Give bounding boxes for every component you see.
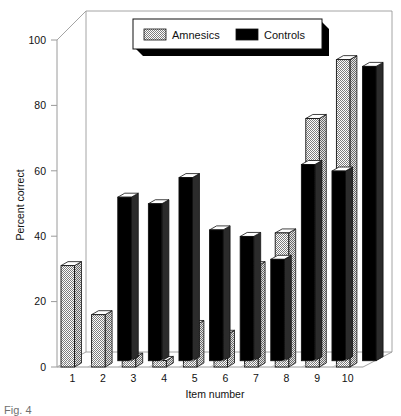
x-tick-label-5: 5 <box>192 372 198 384</box>
figure-container: 020406080100 Percent correct 12345678910… <box>0 0 401 416</box>
bar-controls-2 <box>118 193 139 361</box>
bar-side <box>162 200 169 361</box>
legend-label-amnesics: Amnesics <box>172 29 220 41</box>
y-tick-label: 80 <box>34 99 46 111</box>
bar-face <box>179 178 193 361</box>
bar-controls-10 <box>363 62 384 360</box>
bar-side <box>192 174 199 361</box>
bar-face <box>301 165 315 361</box>
bar-face <box>271 259 285 360</box>
bar-face <box>240 236 254 360</box>
bar-face <box>61 266 75 367</box>
bar-side <box>223 226 230 361</box>
bar-face <box>118 197 132 361</box>
bar-face <box>210 230 224 361</box>
bar-side <box>315 161 322 361</box>
bar-side <box>131 193 138 361</box>
x-tick-label-2: 2 <box>100 372 106 384</box>
bar-amnesics-2 <box>92 311 113 367</box>
bar-side <box>345 167 352 361</box>
legend-swatch-controls <box>236 29 258 40</box>
x-tick-label-7: 7 <box>253 372 259 384</box>
bar-side <box>284 255 291 360</box>
x-tick-label-9: 9 <box>314 372 320 384</box>
x-tick-label-4: 4 <box>161 372 167 384</box>
x-axis-title: Item number <box>186 388 245 400</box>
bar-face <box>92 315 106 367</box>
y-tick-label: 60 <box>34 165 46 177</box>
bar-side <box>254 232 261 360</box>
x-tick-label-8: 8 <box>284 372 290 384</box>
bar-face <box>148 204 162 361</box>
bar-chart-3d: 020406080100 Percent correct 12345678910… <box>0 0 401 416</box>
y-axis-title: Percent correct <box>14 169 26 240</box>
y-tick-label: 20 <box>34 295 46 307</box>
y-tick-label: 0 <box>40 361 46 373</box>
legend-swatch-amnesics <box>144 29 166 40</box>
bar-side <box>376 62 383 360</box>
bar-controls-6 <box>240 232 261 360</box>
bar-controls-4 <box>179 174 200 361</box>
y-tick-label: 40 <box>34 230 46 242</box>
bar-controls-7 <box>271 255 292 360</box>
figure-caption: Fig. 4 <box>4 404 32 416</box>
bar-side <box>105 311 112 367</box>
legend: Amnesics Controls <box>133 19 329 56</box>
x-tick-label-6: 6 <box>222 372 228 384</box>
bar-controls-5 <box>210 226 231 361</box>
bar-amnesics-1 <box>61 262 82 367</box>
bar-side <box>75 262 82 367</box>
x-tick-label-1: 1 <box>69 372 75 384</box>
bar-face <box>332 171 346 361</box>
x-tick-label-10: 10 <box>342 372 354 384</box>
legend-label-controls: Controls <box>264 29 305 41</box>
x-tick-label-3: 3 <box>131 372 137 384</box>
bar-controls-3 <box>148 200 169 361</box>
bar-controls-9 <box>332 167 353 361</box>
bar-face <box>363 66 377 360</box>
y-tick-label: 100 <box>28 34 46 46</box>
bar-controls-8 <box>301 161 322 361</box>
